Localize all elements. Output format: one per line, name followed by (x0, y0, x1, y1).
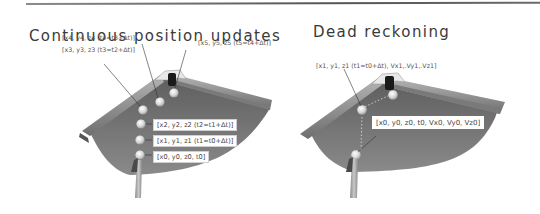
diagram-scene (0, 0, 540, 214)
label-dr-position-0: [x0, y0, z0, t0, Vx0, Vy0, Vz0] (372, 116, 484, 129)
label-position-5: [x5, y5, z5 (t5=t4+Δt)] (198, 39, 271, 47)
label-position-0: [x0, y0, z0, t0] (153, 151, 209, 163)
label-position-2: [x2, y2, z2 (t2=t1+Δt)] (153, 119, 237, 131)
right-table-illustration (300, 69, 505, 198)
label-position-1: [x1, y1, z1 (t1=t0+Δt)] (153, 135, 237, 147)
label-position-3: [x3, y3, z3 (t3=t2+Δt)] (62, 46, 135, 54)
label-dr-position-1: [x1, y1, z1 (t1=t0+Δt), Vx1,.Vy1,.Vz1] (316, 62, 436, 70)
label-position-4: [x4, y4, z4 (t4=t3+Δt)] (62, 34, 135, 42)
